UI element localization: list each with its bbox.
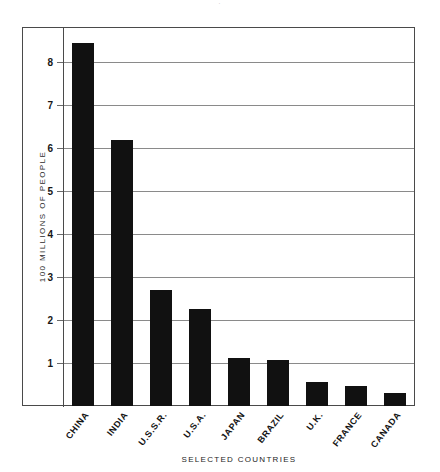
bar [306,382,328,406]
x-tick-label: FRANCE [336,408,375,452]
plot-area: 12345678 [64,28,414,406]
y-tick-mark [57,148,63,149]
y-tick-mark [57,234,63,235]
x-tick-label-text: FRANCE [330,410,363,449]
x-tick-label-text: JAPAN [219,410,247,442]
x-tick-labels: CHINAINDIAU.S.S.R.U.S.A.JAPANBRAZILU.K.F… [64,408,414,452]
x-tick-label: U.K. [297,408,336,452]
bar-chart-figure: · 100 MILLIONS OF PEOPLE 12345678 CHINAI… [0,0,440,472]
y-tick-label: 3 [47,272,53,283]
bar [111,140,133,406]
y-tick-label: 1 [47,358,53,369]
x-tick-label: INDIA [103,408,142,452]
chart-title: · [0,0,440,8]
bar [72,43,94,406]
bar [228,358,250,406]
y-tick-label: 2 [47,315,53,326]
x-tick-label-text: BRAZIL [255,410,285,445]
y-tick-mark [57,191,63,192]
x-axis-title: SELECTED COUNTRIES [64,455,414,464]
x-tick-label-text: U.S.A. [182,410,208,440]
x-tick-label-text: INDIA [105,410,130,438]
y-tick-mark [57,105,63,106]
bar [384,393,406,406]
y-tick-mark [57,62,63,63]
y-axis-title-text: 100 MILLIONS OF PEOPLE [38,151,47,282]
y-tick-mark [57,320,63,321]
x-tick-label: U.S.A. [181,408,220,452]
x-tick-label-text: U.S.S.R. [137,410,169,448]
y-tick-label: 8 [47,57,53,68]
y-tick-label: 7 [47,100,53,111]
y-tick-mark [57,277,63,278]
bar [267,360,289,406]
gridline: 7 [64,105,414,106]
x-tick-label-text: U.K. [304,410,324,432]
x-tick-label: U.S.S.R. [142,408,181,452]
x-tick-label: BRAZIL [258,408,297,452]
y-axis-title: 100 MILLIONS OF PEOPLE [22,27,63,406]
x-tick-label: JAPAN [220,408,259,452]
y-tick-label: 4 [47,229,53,240]
bar [345,386,367,406]
x-tick-label: CANADA [375,408,414,452]
x-tick-label: CHINA [64,408,103,452]
y-tick-label: 6 [47,143,53,154]
bar [150,290,172,406]
bar [189,309,211,406]
y-tick-label: 5 [47,186,53,197]
y-tick-mark [57,363,63,364]
x-tick-label-text: CHINA [64,410,91,441]
gridline: 8 [64,62,414,63]
